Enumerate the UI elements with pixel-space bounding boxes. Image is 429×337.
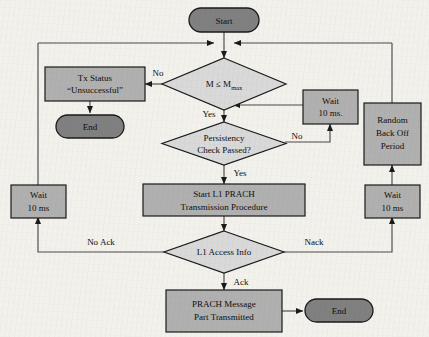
edge-label-no-ack: No Ack	[87, 237, 115, 247]
edge-label-yes-m: Yes	[202, 109, 216, 119]
wait-left-line2: 10 ms	[28, 203, 50, 213]
decision-persistency-line2: Check Passed?	[197, 145, 251, 155]
tx-status-line1: Tx Status	[78, 73, 113, 83]
edge-label-no-persistency: No	[292, 131, 303, 141]
tx-status-line2: “Unsuccessful”	[67, 85, 123, 95]
edge-label-yes-persistency: Yes	[233, 168, 247, 178]
node-start[interactable]: Start	[189, 8, 259, 32]
node-decision-persistency[interactable]: Persistency Check Passed?	[162, 122, 286, 165]
wait-right-lower-line1: Wait	[384, 190, 401, 200]
edge-label-no-m: No	[153, 68, 164, 78]
node-end-left[interactable]: End	[56, 115, 124, 138]
node-wait-left[interactable]: Wait 10 ms	[11, 185, 66, 218]
start-l1-prach-line2: Transmission Procedure	[181, 202, 268, 212]
node-wait-mid-right[interactable]: Wait 10 ms.	[303, 90, 358, 124]
random-backoff-line3: Period	[381, 141, 405, 151]
edge-nack-to-wait-right-lower	[283, 217, 392, 252]
decision-l1-access-label: L1 Access Info	[197, 247, 252, 257]
start-label: Start	[216, 16, 233, 26]
decision-persistency-shape	[162, 122, 286, 165]
end-bottom-label: End	[332, 306, 347, 316]
start-l1-prach-line1: Start L1 PRACH	[193, 189, 255, 199]
node-decision-l1-access[interactable]: L1 Access Info	[164, 231, 284, 273]
wait-mid-right-line1: Wait	[322, 96, 339, 106]
random-backoff-line1: Random	[377, 115, 408, 125]
flowchart-canvas: Start M ≤ Mmax Tx Status “Unsuccessful” …	[0, 0, 429, 337]
edge-label-nack: Nack	[305, 237, 324, 247]
decision-persistency-line1: Persistency	[204, 133, 245, 143]
node-tx-status[interactable]: Tx Status “Unsuccessful”	[45, 67, 145, 101]
wait-left-line1: Wait	[30, 190, 47, 200]
edge-label-ack: Ack	[234, 277, 249, 287]
prach-message-line1: PRACH Message	[192, 299, 256, 309]
node-start-l1-prach[interactable]: Start L1 PRACH Transmission Procedure	[143, 184, 305, 216]
random-backoff-line2: Back Off	[376, 128, 409, 138]
flowchart-svg: Start M ≤ Mmax Tx Status “Unsuccessful” …	[0, 0, 429, 337]
node-end-bottom[interactable]: End	[305, 299, 373, 322]
node-prach-message[interactable]: PRACH Message Part Transmitted	[166, 290, 282, 332]
wait-mid-right-line2: 10 ms.	[318, 108, 342, 118]
node-decision-m[interactable]: M ≤ Mmax	[162, 58, 286, 110]
prach-message-line2: Part Transmitted	[194, 312, 254, 322]
node-random-backoff[interactable]: Random Back Off Period	[364, 103, 421, 165]
wait-right-lower-line2: 10 ms	[382, 203, 404, 213]
node-wait-right-lower[interactable]: Wait 10 ms	[365, 185, 420, 218]
end-left-label: End	[83, 122, 98, 132]
